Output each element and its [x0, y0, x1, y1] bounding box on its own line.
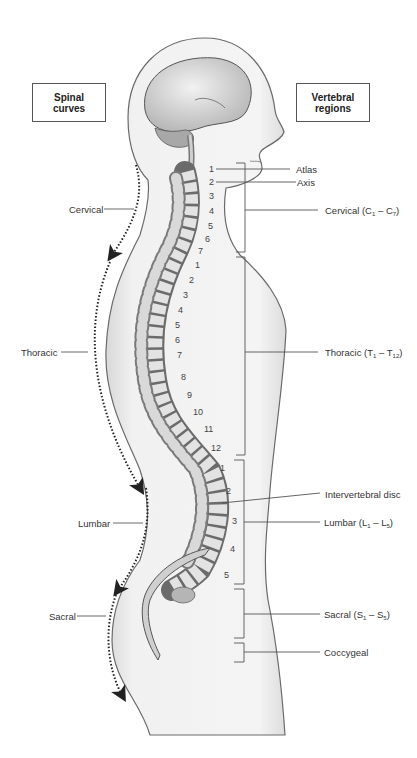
- curve-label-sacral: Sacral: [49, 611, 76, 622]
- region-label-axis: Axis: [297, 177, 315, 188]
- region-label-thoracic: Thoracic (T1 – T12): [325, 347, 402, 362]
- vertebra-number-t8: 8: [181, 372, 186, 382]
- vertebra-number-t10: 10: [193, 407, 203, 417]
- vertebra-number-l4: 4: [230, 544, 235, 554]
- vertebra-number-t9: 9: [187, 390, 192, 400]
- region-label-coccygeal: Coccygeal: [324, 647, 368, 658]
- region-label-atlas: Atlas: [296, 164, 317, 175]
- curve-label-cervical: Cervical: [69, 204, 103, 215]
- vertebra-number-t11: 11: [204, 424, 213, 434]
- curve-label-thoracic: Thoracic: [21, 347, 57, 358]
- spinal-curves-title: Spinal curves: [44, 92, 94, 114]
- region-label-sacral: Sacral (S1 – S5): [324, 609, 390, 624]
- vertebra-number-l2: 2: [226, 486, 231, 496]
- vertebra-number-t6: 6: [175, 335, 180, 345]
- vertebra-number-c5: 5: [208, 221, 213, 231]
- region-label-lumbar: Lumbar (L1 – L5): [324, 517, 393, 532]
- vertebra-number-l1: 1: [220, 463, 225, 473]
- vertebra-number-c6: 6: [205, 234, 210, 244]
- curve-label-lumbar: Lumbar: [78, 518, 110, 529]
- cervical-curve-arrow: [112, 165, 139, 255]
- vertebra-number-t7: 7: [177, 350, 182, 360]
- vertebra-number-l3: 3: [232, 516, 237, 526]
- vertebra-number-t12: 12: [211, 443, 221, 453]
- vertebra-number-c2: 2: [209, 177, 214, 187]
- spinal-curves-box: Spinal curves: [32, 83, 106, 122]
- vertebra-number-c7: 7: [198, 246, 203, 256]
- vertebral-regions-box: Vertebral regions: [296, 83, 370, 122]
- vertebra-number-t2: 2: [189, 275, 194, 285]
- vertebra-number-t3: 3: [183, 290, 188, 300]
- vertebra-number-l5: 5: [224, 570, 229, 580]
- vertebra-number-c4: 4: [209, 206, 214, 216]
- vertebra-number-t5: 5: [175, 320, 180, 330]
- body-outline: [106, 38, 286, 735]
- vertebra-number-c3: 3: [209, 191, 214, 201]
- vertebral-regions-title: Vertebral regions: [305, 92, 361, 114]
- vertebra-number-t4: 4: [178, 305, 183, 315]
- vertebra-number-t1: 1: [195, 260, 200, 270]
- region-label-cervical: Cervical (C1 – C7): [325, 205, 399, 220]
- region-label-intervertebral-disc: Intervertebral disc: [325, 489, 401, 500]
- vertebra-number-c1: 1: [209, 164, 214, 174]
